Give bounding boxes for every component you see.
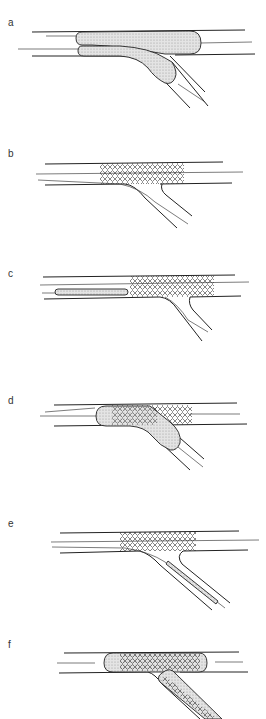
balloon-in-stent-diagram xyxy=(0,260,266,370)
final-kissing-balloon-diagram xyxy=(0,610,266,719)
side-branch-dilation-diagram xyxy=(0,370,266,490)
panel-a: a xyxy=(0,0,266,130)
side-branch-stent-delivery-diagram xyxy=(0,500,266,610)
panel-f: f xyxy=(0,610,266,719)
side-stent xyxy=(161,676,217,719)
kissing-balloon-diagram xyxy=(0,0,266,130)
main-stent xyxy=(120,654,200,671)
main-vessel-stent-diagram xyxy=(0,140,266,250)
balloon xyxy=(55,289,128,295)
panel-c: c xyxy=(0,260,266,370)
stent xyxy=(130,276,214,297)
side-branch-balloon xyxy=(166,561,218,604)
panel-e: e xyxy=(0,500,266,610)
panel-b: b xyxy=(0,140,266,250)
stent xyxy=(100,163,184,184)
panel-d: d xyxy=(0,370,266,490)
stent xyxy=(120,532,196,551)
